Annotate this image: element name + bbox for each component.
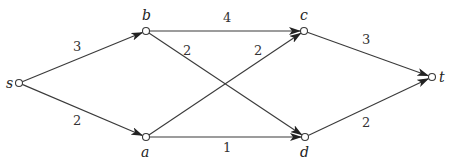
edge-weight-c-t: 3 [362, 32, 370, 47]
edge-weight-s-a: 2 [73, 113, 81, 128]
node-b [143, 28, 150, 35]
node-s [16, 80, 23, 87]
edge-weight-b-c: 4 [223, 10, 231, 25]
node-label-c: c [300, 7, 308, 23]
node-label-t: t [439, 69, 445, 85]
node-label-s: s [6, 75, 13, 91]
edge-weight-a-c: 2 [254, 43, 262, 58]
node-c [301, 28, 308, 35]
node-a [143, 134, 150, 141]
node-label-d: d [300, 144, 309, 160]
edge-weight-b-d: 2 [183, 43, 191, 58]
node-t [429, 74, 436, 81]
node-d [302, 134, 309, 141]
node-label-a: a [141, 144, 149, 160]
flow-network-diagram: 32422132sbacdt [0, 0, 451, 166]
edge-weight-d-t: 2 [362, 115, 370, 130]
edge-weight-a-d: 1 [223, 140, 231, 155]
edge-weight-s-b: 3 [73, 39, 81, 54]
edge-s-b [22, 33, 142, 82]
node-label-b: b [142, 7, 151, 23]
edge-s-a [22, 84, 142, 135]
